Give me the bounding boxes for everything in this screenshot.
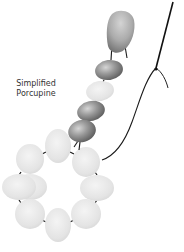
- dark-bead: [94, 58, 125, 82]
- ring-bead: [71, 199, 101, 229]
- ring-bead: [45, 129, 71, 163]
- caption-line-2: Porcupine: [8, 89, 64, 99]
- ring-bead: [2, 174, 36, 200]
- strand-beads: [66, 58, 125, 145]
- working-thread: [102, 68, 156, 160]
- needle: [154, 2, 173, 88]
- ring-bead: [15, 199, 45, 229]
- porcupine-beading-diagram: [0, 0, 184, 252]
- ring-bead: [72, 147, 100, 177]
- needle-shaft: [156, 2, 173, 68]
- needle-eye-loop: [156, 68, 168, 88]
- light-bead: [85, 79, 116, 103]
- dark-bead: [66, 117, 99, 145]
- ring-bead: [45, 208, 71, 242]
- diagram-caption: Simplified Porcupine: [8, 79, 64, 99]
- caption-line-1: Simplified: [8, 79, 64, 89]
- dark-bead: [75, 98, 107, 123]
- ring-bead: [80, 175, 114, 201]
- drop-bead: [107, 11, 135, 53]
- ring-bead: [16, 144, 44, 174]
